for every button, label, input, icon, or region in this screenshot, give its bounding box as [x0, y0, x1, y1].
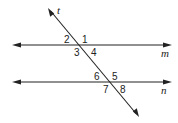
arrowhead-left-m	[12, 43, 21, 48]
label-t: t	[57, 4, 61, 16]
arrowhead-left-n	[12, 80, 21, 85]
angle-8-label: 8	[120, 84, 126, 95]
angle-7-label: 7	[103, 84, 109, 95]
angle-5-label: 5	[112, 71, 118, 82]
line-t	[48, 8, 139, 117]
diagram-canvas: t m n 1 2 3 4 5 6 7 8	[0, 0, 178, 123]
diagram: t m n 1 2 3 4 5 6 7 8	[0, 0, 178, 123]
angle-6-label: 6	[94, 71, 100, 82]
angle-4-label: 4	[91, 47, 97, 58]
line-n	[12, 80, 172, 85]
label-m: m	[161, 47, 169, 59]
arrowhead-top-t	[48, 8, 54, 17]
angle-1-label: 1	[82, 34, 88, 45]
arrowhead-bottom-t	[133, 108, 139, 117]
label-n: n	[161, 84, 167, 96]
angle-2-label: 2	[64, 34, 70, 45]
angle-3-label: 3	[74, 47, 80, 58]
